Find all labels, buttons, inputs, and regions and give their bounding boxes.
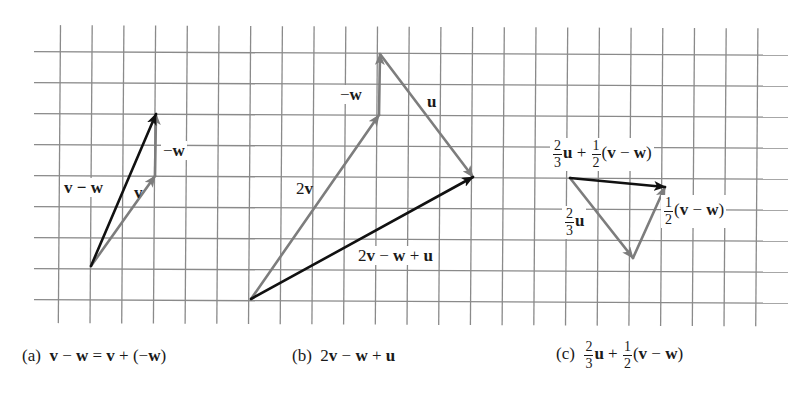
- grid-line-horizontal: [34, 114, 788, 118]
- numerator: 1: [592, 139, 601, 155]
- label-v: v: [305, 179, 314, 198]
- label-2v: 2v: [294, 179, 315, 198]
- sym-v: v: [49, 346, 58, 365]
- denominator: 3: [566, 223, 573, 238]
- coef-2: 2: [358, 246, 367, 265]
- op-minus: −: [688, 200, 706, 219]
- sym-v: v: [680, 200, 689, 219]
- denominator: 2: [624, 356, 631, 371]
- fraction-one-half: 12: [664, 196, 673, 227]
- label-w: w: [350, 85, 362, 104]
- grid-line-horizontal: [34, 52, 788, 56]
- minus-sign: −: [163, 141, 173, 160]
- op-plus: +: [572, 143, 590, 162]
- grid-line-vertical: [566, 27, 568, 325]
- fraction-one-half: 12: [592, 139, 601, 170]
- op-plus-paren: + (−: [115, 346, 148, 365]
- caption-c-tag: (c): [556, 344, 575, 363]
- grid-line-vertical: [597, 28, 599, 326]
- grid-line-vertical: [629, 28, 631, 326]
- vector-arrow-a--w: [155, 114, 156, 176]
- grid-line-vertical: [122, 25, 124, 323]
- grid-line-vertical: [407, 27, 409, 325]
- sym-w: w: [148, 346, 160, 365]
- label-u-text: u: [427, 92, 436, 111]
- denominator: 3: [585, 356, 592, 371]
- grid-line-vertical: [185, 26, 187, 324]
- label-v-minus-w-w: w: [91, 178, 103, 197]
- close-paren: ): [719, 200, 725, 219]
- fraction-two-thirds: 23: [565, 207, 574, 238]
- sym-w: w: [76, 346, 88, 365]
- numerator: 1: [623, 340, 632, 356]
- vector-arrow-b-2v: [251, 115, 379, 299]
- sym-v: v: [607, 143, 616, 162]
- label-one-half-v-minus-w: 12(v − w): [661, 195, 726, 228]
- op-plus: +: [604, 344, 622, 363]
- grid-line-vertical: [661, 28, 663, 326]
- grid-line-horizontal: [34, 300, 788, 304]
- coef-2: 2: [296, 179, 305, 198]
- op-minus: −: [337, 346, 355, 365]
- sym-w: w: [665, 344, 677, 363]
- sym-u: u: [423, 246, 432, 265]
- label-neg-w-a: −w: [161, 141, 187, 160]
- grid-line-horizontal: [34, 238, 788, 242]
- minus-sign: −: [340, 85, 350, 104]
- op-plus: +: [405, 246, 423, 265]
- label-v: v: [132, 183, 145, 202]
- label-w: w: [173, 141, 185, 160]
- caption-a-tag: (a): [22, 346, 41, 365]
- grid-line-vertical: [756, 28, 758, 326]
- denominator: 2: [593, 155, 600, 170]
- grid-line-horizontal: [34, 83, 788, 87]
- label-two-thirds-u: 23u: [562, 206, 586, 239]
- grid-line-vertical: [375, 27, 377, 325]
- denominator: 3: [554, 155, 561, 170]
- vector-arrow-b--w: [379, 54, 380, 115]
- sym-w: w: [706, 200, 718, 219]
- sym-u: u: [594, 344, 603, 363]
- grid-line-horizontal: [34, 145, 788, 149]
- numerator: 2: [565, 207, 574, 223]
- grid-line-vertical: [249, 26, 251, 324]
- op-equals: =: [88, 346, 106, 365]
- grid-line-vertical: [58, 25, 60, 323]
- numerator: 1: [664, 196, 673, 212]
- label-2v-minus-w-plus-u: 2v − w + u: [356, 246, 435, 265]
- sym-w: w: [393, 246, 405, 265]
- sym-w: w: [634, 143, 646, 162]
- op-minus: −: [375, 246, 393, 265]
- fraction-two-thirds: 23: [553, 139, 562, 170]
- denominator: 2: [665, 212, 672, 227]
- vector-arrow-c-2-3u-1-2-v-w-: [570, 178, 665, 187]
- label-c-resultant: 23u + 12(v − w): [550, 138, 654, 171]
- coef-2: 2: [320, 346, 329, 365]
- sym-v: v: [367, 246, 376, 265]
- caption-c: (c) 23u + 12(v − w): [556, 340, 683, 371]
- grid-line-vertical: [344, 26, 346, 324]
- op-minus: −: [58, 346, 76, 365]
- close-paren: ): [646, 143, 652, 162]
- grid-line-vertical: [502, 27, 504, 325]
- grid-line-vertical: [692, 28, 694, 326]
- caption-a: (a) v − w = v + (−w): [22, 347, 166, 364]
- sym-v: v: [639, 344, 648, 363]
- label-neg-w-b: −w: [338, 85, 364, 104]
- label-v-text: v: [134, 183, 143, 202]
- close-paren: ): [160, 346, 166, 365]
- label-v-minus-w: v − w: [62, 178, 105, 197]
- numerator: 2: [584, 340, 593, 356]
- grid-line-vertical: [439, 27, 441, 325]
- sym-u: u: [386, 346, 395, 365]
- grid-line-vertical: [280, 26, 282, 324]
- caption-b-tag: (b): [292, 346, 312, 365]
- numerator: 2: [553, 139, 562, 155]
- label-v-minus-w-v: v −: [64, 178, 91, 197]
- caption-b: (b) 2v − w + u: [292, 347, 395, 364]
- vector-diagram: v − w v −w 2v −w u 2v − w + u 23u + 12(v…: [0, 0, 807, 393]
- fraction-two-thirds: 23: [584, 340, 593, 371]
- sym-v: v: [106, 346, 115, 365]
- grid-line-vertical: [534, 27, 536, 325]
- sym-w: w: [355, 346, 367, 365]
